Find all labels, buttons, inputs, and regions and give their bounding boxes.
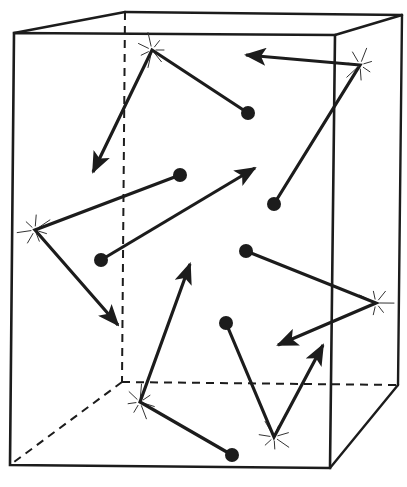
molecule-m7 [140, 264, 239, 462]
trajectory-arrow [246, 55, 360, 204]
hidden-edge [10, 382, 122, 465]
trajectory-arrow [93, 50, 248, 172]
molecule-dot-icon [219, 316, 233, 330]
molecule-m4 [94, 168, 255, 267]
hidden-edge [122, 382, 398, 385]
molecule-dot-icon [241, 106, 255, 120]
molecule-paths [35, 50, 376, 462]
box-edge [335, 15, 402, 35]
trajectory-arrow [246, 251, 376, 345]
molecule-dot-icon [267, 197, 281, 211]
molecule-m3 [35, 168, 187, 325]
trajectory-arrow [226, 323, 323, 437]
box-edge [125, 12, 402, 15]
molecule-m2 [246, 55, 360, 211]
molecule-dot-icon [239, 244, 253, 258]
diagram-svg [0, 0, 407, 487]
kinetic-theory-diagram [0, 0, 407, 487]
trajectory-arrow [35, 175, 180, 325]
molecule-dot-icon [94, 253, 108, 267]
trajectory-arrow [140, 264, 232, 455]
box-edge [330, 385, 398, 468]
collision-sparks [17, 33, 394, 450]
molecule-m6 [219, 316, 323, 437]
molecule-m1 [93, 50, 255, 172]
box-visible-edges [10, 12, 402, 468]
molecule-dot-icon [225, 448, 239, 462]
molecule-dot-icon [173, 168, 187, 182]
front-face [10, 33, 335, 468]
molecule-m5 [239, 244, 376, 345]
box-edge [14, 12, 125, 33]
box-edge [398, 15, 402, 385]
box-hidden-edges [10, 12, 398, 465]
